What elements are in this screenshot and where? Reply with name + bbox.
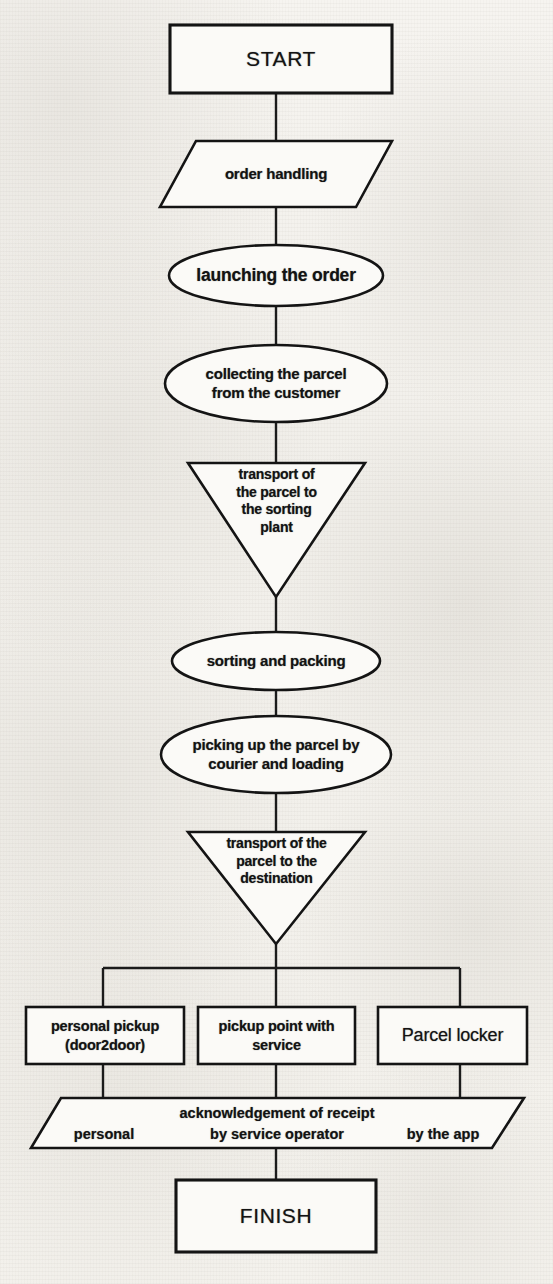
node-transport-sorting-shape[interactable]: [188, 463, 365, 597]
node-transport-destination-shape[interactable]: [188, 832, 365, 944]
node-parcel-locker-shape[interactable]: [378, 1007, 527, 1064]
node-sorting-packing-shape[interactable]: [172, 632, 380, 690]
node-picking-up-shape[interactable]: [161, 716, 391, 793]
node-finish-shape[interactable]: [176, 1180, 376, 1252]
node-start-shape[interactable]: [170, 25, 392, 93]
node-personal-pickup-shape[interactable]: [26, 1007, 184, 1064]
flowchart-page: START order handling launching the order…: [0, 0, 553, 1284]
node-order-handling-shape[interactable]: [160, 141, 392, 207]
node-acknowledgement-shape[interactable]: [31, 1098, 524, 1148]
flowchart-canvas: [0, 0, 553, 1284]
node-collecting-shape[interactable]: [165, 345, 387, 422]
node-launching-shape[interactable]: [169, 245, 383, 306]
node-pickup-point-shape[interactable]: [198, 1007, 355, 1064]
